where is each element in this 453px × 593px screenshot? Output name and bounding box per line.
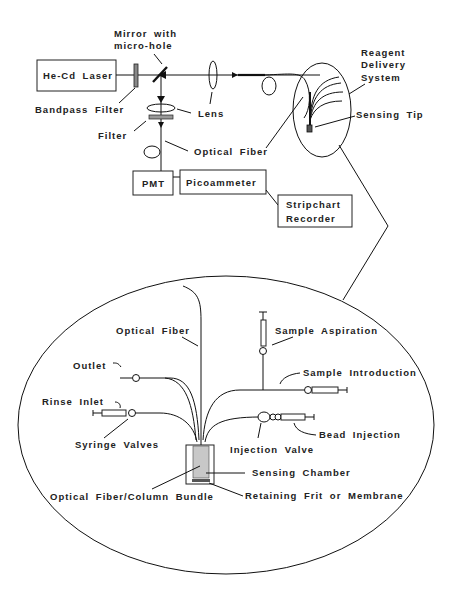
detail-ellipse	[18, 276, 434, 574]
filter-leader	[134, 121, 146, 131]
rinse-leader	[115, 402, 120, 408]
fiber-to-tip	[265, 74, 309, 118]
frit-leader	[209, 483, 243, 496]
recorder-label-1: Stripchart	[286, 199, 341, 210]
frit-label: Retaining Frit or Membrane	[245, 490, 404, 501]
fiber-coil-icon	[144, 146, 160, 158]
lens-label: Lens	[198, 108, 224, 119]
bead-tube	[205, 417, 260, 442]
injection-valve-leader	[258, 423, 261, 438]
lens-leader	[177, 109, 191, 113]
aspiration-syringe-icon	[261, 320, 266, 346]
outlet-valve-icon	[133, 375, 140, 382]
filter-label: Filter	[98, 130, 127, 141]
reagent-leader	[349, 84, 365, 94]
outlet-label: Outlet	[73, 360, 106, 371]
sensing-tip-label: Sensing Tip	[356, 109, 424, 120]
sensing-tip-icon	[307, 125, 312, 132]
rinse-syringe-icon	[102, 410, 126, 416]
down-arrow-2-icon	[158, 122, 164, 128]
laser-label: He-Cd Laser	[43, 70, 113, 81]
bundle-label: Optical Fiber/Column Bundle	[50, 491, 214, 502]
aspiration-label: Sample Aspiration	[275, 325, 378, 336]
bandpass-label: Bandpass Filter	[35, 104, 124, 115]
detail-fiber-leader	[182, 337, 198, 346]
recorder-label-2: Recorder	[286, 213, 336, 224]
syringe-valves-leader	[104, 419, 128, 438]
down-arrow-icon	[157, 96, 165, 103]
aspiration-leader	[272, 337, 293, 345]
pmt-label: PMT	[142, 178, 165, 189]
rinse-tube	[136, 413, 198, 442]
recorder-connector	[266, 190, 278, 205]
reagent-line-3	[310, 92, 343, 120]
mirror-label-1: Mirror with	[114, 28, 177, 39]
diagram-canvas: He-Cd Laser Bandpass Filter Mirror with …	[0, 0, 453, 593]
sample-leader	[280, 373, 300, 384]
sample-valve-icon	[305, 387, 312, 394]
lens-leader-top	[210, 92, 212, 104]
reagent-label-3: System	[361, 72, 401, 83]
tip-inset-ellipse	[293, 63, 351, 157]
sensing-chamber-label: Sensing Chamber	[252, 467, 351, 478]
filter-icon	[149, 115, 173, 119]
syringe-valves-label: Syringe Valves	[75, 439, 159, 450]
fiber-loop-icon	[262, 77, 276, 95]
bead-syringe-icon	[281, 414, 305, 420]
injection-valve-label: Injection Valve	[230, 444, 314, 455]
outlet-tube	[140, 378, 200, 440]
rinse-label: Rinse Inlet	[42, 396, 104, 407]
reagent-line-1	[310, 77, 339, 120]
fiber-leader-to-tip	[266, 97, 303, 148]
optical-fiber-label: Optical Fiber	[194, 146, 268, 157]
bead-valve-2-icon	[275, 414, 281, 420]
bandpass-filter-icon	[134, 64, 138, 87]
bead-label: Bead Injection	[319, 429, 401, 440]
sample-syringe-icon	[312, 387, 338, 393]
reagent-label-2: Delivery	[361, 59, 406, 70]
bead-leader	[294, 423, 316, 435]
optical-fiber-leader	[165, 141, 188, 151]
outlet-leader	[113, 363, 121, 367]
picoammeter-label: Picoammeter	[186, 177, 257, 188]
outlet-tube-2	[165, 378, 196, 440]
rinse-valve-icon	[129, 410, 136, 417]
mirror-label-2: micro-hole	[114, 40, 173, 51]
frit-icon	[192, 479, 210, 482]
sample-introduction-label: Sample Introduction	[303, 367, 417, 378]
reagent-line-4	[310, 101, 342, 120]
reagent-label-1: Reagent	[361, 47, 405, 58]
detail-fiber-label: Optical Fiber	[116, 325, 190, 336]
bandpass-leader	[119, 88, 135, 103]
aspiration-valve-icon	[260, 348, 267, 355]
detail-optical-fiber	[183, 286, 201, 447]
injection-valve-icon	[258, 412, 270, 422]
mirror-leader	[154, 54, 162, 64]
beam-arrow-right-icon	[232, 72, 238, 78]
